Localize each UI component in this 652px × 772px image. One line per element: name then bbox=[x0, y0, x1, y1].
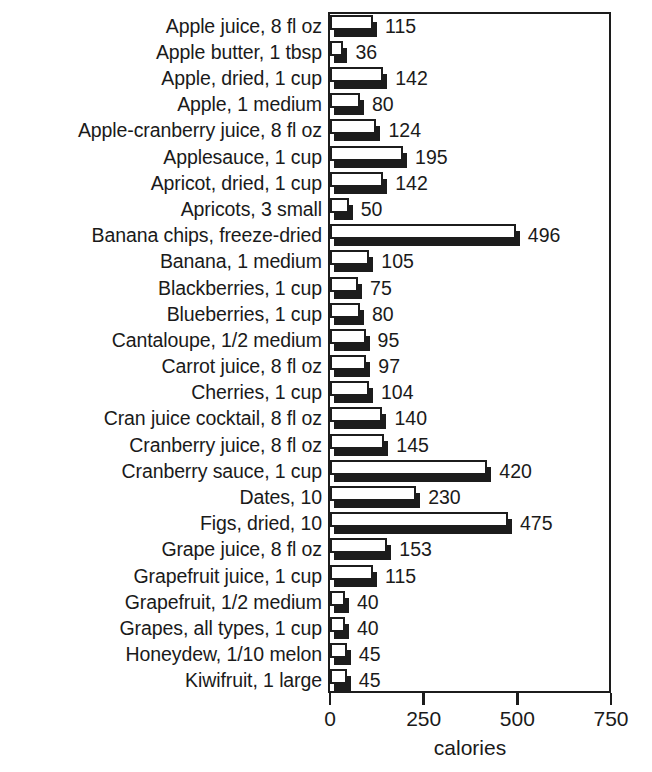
x-tick-mark bbox=[610, 693, 613, 705]
bar-face bbox=[330, 669, 347, 684]
x-tick-label: 500 bbox=[500, 707, 535, 731]
bar-face bbox=[330, 41, 343, 56]
bar-row: Apple, dried, 1 cup142 bbox=[0, 64, 652, 91]
bar bbox=[330, 486, 420, 508]
category-label: Kiwifruit, 1 large bbox=[185, 670, 322, 690]
bar-value-label: 105 bbox=[381, 251, 414, 271]
bar-face bbox=[330, 93, 360, 108]
bar-row: Honeydew, 1/10 melon45 bbox=[0, 641, 652, 668]
bar-face bbox=[330, 591, 345, 606]
bar-face bbox=[330, 119, 376, 134]
x-axis-title: calories bbox=[434, 736, 506, 760]
category-label: Carrot juice, 8 fl oz bbox=[162, 356, 322, 376]
bar-value-label: 104 bbox=[381, 382, 414, 402]
bar-row: Cranberry sauce, 1 cup420 bbox=[0, 457, 652, 484]
bar bbox=[330, 198, 353, 220]
x-tick-label: 250 bbox=[406, 707, 441, 731]
bar-value-label: 80 bbox=[372, 94, 394, 114]
category-label: Applesauce, 1 cup bbox=[163, 147, 322, 167]
bar bbox=[330, 669, 351, 691]
bar-value-label: 153 bbox=[399, 539, 432, 559]
bar-row: Dates, 10230 bbox=[0, 483, 652, 510]
category-label: Blackberries, 1 cup bbox=[158, 278, 322, 298]
bar-face bbox=[330, 146, 403, 161]
category-label: Blueberries, 1 cup bbox=[167, 304, 322, 324]
bar bbox=[330, 224, 520, 246]
bar-row: Grapefruit, 1/2 medium40 bbox=[0, 588, 652, 615]
bar bbox=[330, 146, 407, 168]
category-label: Apricots, 3 small bbox=[181, 199, 322, 219]
bar bbox=[330, 329, 370, 351]
category-label: Apple juice, 8 fl oz bbox=[166, 16, 322, 36]
bar-face bbox=[330, 486, 416, 501]
x-tick-label: 0 bbox=[324, 707, 336, 731]
bar bbox=[330, 41, 347, 63]
bar bbox=[330, 172, 387, 194]
bar-face bbox=[330, 224, 516, 239]
bar-row: Applesauce, 1 cup195 bbox=[0, 143, 652, 170]
bar-row: Banana chips, freeze-dried496 bbox=[0, 222, 652, 249]
bar-row: Apple juice, 8 fl oz115 bbox=[0, 12, 652, 39]
bar-value-label: 40 bbox=[357, 592, 379, 612]
category-label: Cherries, 1 cup bbox=[191, 382, 322, 402]
bar bbox=[330, 591, 349, 613]
bar-rows: Apple juice, 8 fl oz115Apple butter, 1 t… bbox=[0, 12, 652, 693]
bar bbox=[330, 407, 386, 429]
bar bbox=[330, 643, 351, 665]
category-label: Grapes, all types, 1 cup bbox=[120, 618, 322, 638]
bar bbox=[330, 512, 512, 534]
bar-row: Cantaloupe, 1/2 medium95 bbox=[0, 326, 652, 353]
bar-row: Grape juice, 8 fl oz153 bbox=[0, 536, 652, 563]
category-label: Cranberry sauce, 1 cup bbox=[122, 461, 322, 481]
bar-value-label: 496 bbox=[528, 225, 561, 245]
x-tick-mark bbox=[422, 693, 425, 705]
bar-value-label: 80 bbox=[372, 304, 394, 324]
category-label: Dates, 10 bbox=[239, 487, 322, 507]
bar bbox=[330, 303, 364, 325]
category-label: Cranberry juice, 8 fl oz bbox=[129, 435, 322, 455]
bar bbox=[330, 119, 380, 141]
bar-row: Kiwifruit, 1 large45 bbox=[0, 667, 652, 694]
bar-row: Blueberries, 1 cup80 bbox=[0, 300, 652, 327]
x-axis: calories 0250500750 bbox=[0, 693, 652, 772]
bar-value-label: 75 bbox=[370, 278, 392, 298]
bar bbox=[330, 93, 364, 115]
bar bbox=[330, 381, 373, 403]
bar-row: Figs, dried, 10475 bbox=[0, 510, 652, 537]
category-label: Apple, dried, 1 cup bbox=[161, 68, 322, 88]
category-label: Honeydew, 1/10 melon bbox=[126, 644, 322, 664]
bar-row: Apricots, 3 small50 bbox=[0, 195, 652, 222]
bar-row: Apricot, dried, 1 cup142 bbox=[0, 169, 652, 196]
bar-face bbox=[330, 434, 384, 449]
bar-face bbox=[330, 538, 387, 553]
bar bbox=[330, 460, 491, 482]
bar-face bbox=[330, 303, 360, 318]
category-label: Banana chips, freeze-dried bbox=[92, 225, 322, 245]
bar-value-label: 145 bbox=[396, 435, 429, 455]
bar-face bbox=[330, 250, 369, 265]
bar-face bbox=[330, 198, 349, 213]
bar-value-label: 40 bbox=[357, 618, 379, 638]
bar-face bbox=[330, 643, 347, 658]
bar-value-label: 142 bbox=[395, 68, 428, 88]
bar bbox=[330, 250, 373, 272]
bar-row: Grapes, all types, 1 cup40 bbox=[0, 614, 652, 641]
bar-face bbox=[330, 329, 366, 344]
bar-face bbox=[330, 512, 508, 527]
bar-value-label: 95 bbox=[378, 330, 400, 350]
bar-value-label: 50 bbox=[361, 199, 383, 219]
bar-row: Banana, 1 medium105 bbox=[0, 248, 652, 275]
bar-face bbox=[330, 381, 369, 396]
bar-value-label: 115 bbox=[385, 566, 416, 586]
bar-face bbox=[330, 407, 382, 422]
bar bbox=[330, 277, 362, 299]
bar-value-label: 475 bbox=[520, 513, 553, 533]
bar-face bbox=[330, 67, 383, 82]
bar bbox=[330, 538, 391, 560]
bar bbox=[330, 67, 387, 89]
category-label: Figs, dried, 10 bbox=[200, 513, 322, 533]
bar-face bbox=[330, 15, 373, 30]
bar-value-label: 115 bbox=[385, 16, 416, 36]
bar-face bbox=[330, 172, 383, 187]
bar-face bbox=[330, 355, 366, 370]
